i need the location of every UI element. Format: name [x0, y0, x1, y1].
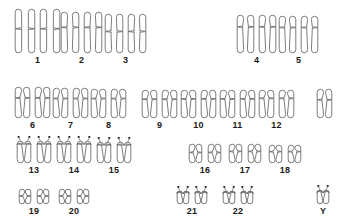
chromosome-pair	[222, 188, 254, 205]
chromosome	[239, 89, 256, 119]
chromosome-pair	[14, 8, 61, 54]
chromosome-label: 17	[228, 165, 262, 176]
chromosome-label: 3	[104, 55, 147, 66]
chromosome-group-Y: Y	[316, 188, 330, 217]
chromosome	[278, 15, 297, 54]
chromosome	[287, 144, 302, 164]
chromosome-pair	[236, 8, 277, 54]
chromosome-label: 19	[18, 206, 50, 217]
chromosome-label: 6	[14, 120, 51, 131]
chromosome	[161, 89, 178, 119]
chromosome-pair	[141, 86, 178, 119]
chromosome-pair	[219, 86, 256, 119]
chromosome-label: 12	[258, 120, 295, 131]
chromosome	[110, 88, 127, 119]
chromosome-label: 11	[219, 120, 256, 131]
chromosome	[104, 13, 124, 54]
chromosome	[56, 136, 72, 164]
chromosome	[200, 89, 217, 119]
karyotype-diagram: 12345678910111213141516171819202122Y	[0, 0, 344, 224]
chromosome-label: 15	[96, 165, 132, 176]
chromosome-pair	[176, 188, 208, 205]
chromosome-group-3: 3	[104, 8, 147, 66]
chromosome-label: 10	[180, 120, 217, 131]
chromosome-label: 5	[278, 55, 319, 66]
chromosome	[278, 89, 295, 119]
chromosome-group-12: 12	[258, 86, 295, 131]
chromosome	[219, 89, 236, 119]
chromosome-group-9: 9	[141, 86, 178, 131]
chromosome-label: 7	[52, 120, 89, 131]
chromosome-label: 18	[268, 165, 302, 176]
chromosome-label: 21	[176, 206, 208, 217]
chromosome-pair	[14, 86, 51, 119]
chromosome-pair	[316, 86, 333, 119]
chromosome	[96, 137, 112, 164]
chromosome	[72, 87, 89, 119]
chromosome	[90, 88, 107, 119]
chromosome-group-18: 18	[268, 140, 302, 176]
chromosome	[76, 136, 92, 164]
chromosome-group-1: 1	[14, 8, 61, 66]
chromosome-group-22: 22	[222, 188, 254, 217]
chromosome-group-7: 7	[52, 86, 89, 131]
chromosome-label: 20	[58, 206, 90, 217]
chromosome	[316, 185, 330, 205]
chromosome-label: 8	[90, 120, 127, 131]
chromosome	[258, 14, 277, 54]
chromosome	[36, 136, 52, 164]
chromosome-pair	[16, 140, 52, 164]
chromosome	[14, 8, 36, 54]
chromosome	[60, 11, 80, 54]
chromosome	[194, 186, 208, 205]
chromosome	[16, 136, 32, 164]
chromosome-label: 2	[60, 55, 103, 66]
chromosome-pair	[278, 8, 319, 54]
chromosome	[76, 188, 90, 205]
chromosome-pair	[104, 8, 147, 54]
chromosome	[222, 186, 236, 205]
chromosome	[116, 137, 132, 164]
chromosome	[36, 188, 50, 205]
chromosome-pair	[316, 188, 330, 205]
chromosome-group-2: 2	[60, 8, 103, 66]
chromosome-pair	[96, 140, 132, 164]
chromosome-group-6: 6	[14, 86, 51, 131]
chromosome-pair	[58, 188, 90, 205]
chromosome-group-5: 5	[278, 8, 319, 66]
chromosome-group-x	[316, 86, 333, 120]
chromosome	[52, 87, 69, 119]
chromosome	[180, 89, 197, 119]
chromosome	[316, 88, 333, 119]
chromosome-group-16: 16	[188, 140, 222, 176]
chromosome-label: 16	[188, 165, 222, 176]
chromosome-label: Y	[316, 206, 330, 217]
chromosome-group-4: 4	[236, 8, 277, 66]
chromosome-label: 22	[222, 206, 254, 217]
chromosome-group-8: 8	[90, 86, 127, 131]
chromosome-label: 9	[141, 120, 178, 131]
chromosome	[18, 188, 32, 205]
chromosome-group-11: 11	[219, 86, 256, 131]
chromosome	[34, 86, 51, 119]
chromosome-pair	[52, 86, 89, 119]
chromosome	[207, 143, 222, 164]
chromosome-pair	[60, 8, 103, 54]
chromosome-pair	[268, 140, 302, 164]
chromosome-pair	[180, 86, 217, 119]
chromosome	[268, 144, 283, 164]
chromosome-group-10: 10	[180, 86, 217, 131]
chromosome	[300, 15, 319, 54]
chromosome-group-14: 14	[56, 140, 92, 176]
chromosome	[188, 143, 203, 164]
chromosome-pair	[56, 140, 92, 164]
chromosome-group-15: 15	[96, 140, 132, 176]
chromosome	[141, 89, 158, 119]
chromosome-label: 14	[56, 165, 92, 176]
chromosome	[247, 143, 262, 164]
chromosome-group-19: 19	[18, 188, 50, 217]
chromosome	[228, 143, 243, 164]
chromosome-label: 4	[236, 55, 277, 66]
chromosome	[240, 186, 254, 205]
chromosome-group-17: 17	[228, 140, 262, 176]
